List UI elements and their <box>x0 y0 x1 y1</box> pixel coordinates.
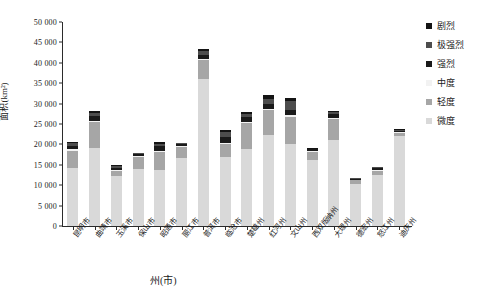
y-axis-title: 面积(km²) <box>0 42 10 162</box>
bar-16 <box>394 129 405 226</box>
bar-8 <box>220 130 231 226</box>
legend-swatch <box>426 61 432 67</box>
y-axis-tick-label: 20 000 <box>34 140 62 149</box>
bar-segment <box>241 149 252 226</box>
legend-item: 中度 <box>426 73 498 92</box>
bar-10 <box>263 95 274 226</box>
bar-9 <box>241 112 252 226</box>
bar-6 <box>176 143 187 226</box>
bar-segment <box>263 110 274 134</box>
bar-segment <box>67 168 78 226</box>
bar-segment <box>372 175 383 226</box>
legend-item: 剧烈 <box>426 16 498 35</box>
legend-label: 剧烈 <box>437 19 455 32</box>
bar-segment <box>220 144 231 157</box>
bar-segment <box>176 158 187 226</box>
x-axis-title: 州(市) <box>150 272 177 287</box>
plot-area: 05 00010 00015 00020 00025 00030 00035 0… <box>62 22 410 226</box>
legend-swatch <box>426 80 432 86</box>
bar-segment <box>89 122 100 147</box>
bar-4 <box>133 153 144 226</box>
legend-swatch <box>426 118 432 124</box>
bar-segment <box>220 157 231 226</box>
bar-5 <box>154 142 165 226</box>
legend-swatch <box>426 99 432 105</box>
bar-segment <box>89 148 100 226</box>
legend-label: 微度 <box>437 114 455 127</box>
legend-swatch <box>426 23 432 29</box>
legend-label: 中度 <box>437 76 455 89</box>
legend-item: 微度 <box>426 111 498 130</box>
bar-segment <box>241 123 252 149</box>
bar-segment <box>307 152 318 160</box>
legend-item: 强烈 <box>426 54 498 73</box>
bar-3 <box>111 165 122 226</box>
bar-segment <box>285 117 296 144</box>
y-axis-tick-label: 35 000 <box>34 79 62 88</box>
y-axis-tick-label: 10 000 <box>34 181 62 190</box>
bar-12 <box>307 148 318 226</box>
bar-segment <box>154 152 165 170</box>
y-axis-tick-label: 45 000 <box>34 38 62 47</box>
bar-segment <box>67 151 78 168</box>
chart-legend: 剧烈极强烈强烈中度轻度微度 <box>426 16 498 130</box>
y-axis-tick-label: 50 000 <box>34 18 62 27</box>
bar-segment <box>285 144 296 226</box>
chart-figure: 05 00010 00015 00020 00025 00030 00035 0… <box>0 0 500 298</box>
bar-segment <box>307 160 318 226</box>
bar-14 <box>350 178 361 226</box>
bar-segment <box>133 157 144 170</box>
legend-label: 强烈 <box>437 57 455 70</box>
bar-2 <box>89 111 100 226</box>
bar-segment <box>394 136 405 226</box>
y-axis-tick-label: 25 000 <box>34 120 62 129</box>
bar-15 <box>372 167 383 226</box>
bar-segment <box>285 101 296 110</box>
bar-segment <box>198 60 209 78</box>
bar-11 <box>285 97 296 226</box>
bar-segment <box>176 147 187 158</box>
y-axis-tick-label: 40 000 <box>34 58 62 67</box>
legend-label: 极强烈 <box>437 38 464 51</box>
bar-1 <box>67 142 78 226</box>
bar-segment <box>350 184 361 226</box>
y-axis-line <box>62 22 63 227</box>
bar-segment <box>328 119 339 140</box>
y-axis-tick-label: 30 000 <box>34 99 62 108</box>
legend-item: 轻度 <box>426 92 498 111</box>
bar-segment <box>133 169 144 226</box>
legend-item: 极强烈 <box>426 35 498 54</box>
bar-segment <box>198 79 209 226</box>
bar-segment <box>263 135 274 226</box>
y-axis-tick-label: 15 000 <box>34 160 62 169</box>
bar-segment <box>111 176 122 226</box>
bar-segment <box>154 170 165 226</box>
legend-swatch <box>426 42 432 48</box>
legend-label: 轻度 <box>437 95 455 108</box>
bar-7 <box>198 49 209 226</box>
